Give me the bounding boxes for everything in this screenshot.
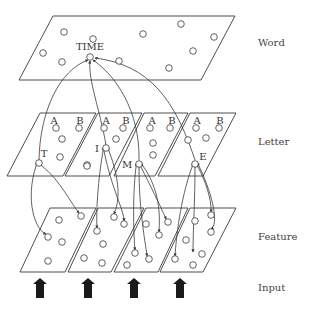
letter-node xyxy=(193,125,200,132)
label-word: Word xyxy=(258,37,285,48)
letter-node-m xyxy=(136,161,143,168)
input-arrow-icon xyxy=(173,278,187,298)
feature-node xyxy=(208,212,215,219)
letter-node xyxy=(53,125,60,132)
letter-node-i xyxy=(103,145,110,152)
letter-node xyxy=(76,125,83,132)
feature-node xyxy=(56,217,63,224)
input-arrow-icon xyxy=(127,278,141,298)
feature-node xyxy=(124,262,131,269)
word-node xyxy=(211,34,218,41)
letter-node xyxy=(150,140,157,147)
letter-node-label: T xyxy=(41,148,48,159)
letter-slot-label: A xyxy=(147,115,156,126)
letter-node xyxy=(147,125,154,132)
word-node xyxy=(40,50,47,57)
letter-node xyxy=(167,125,174,132)
feature-node xyxy=(165,219,172,226)
letter-node-label: E xyxy=(199,151,206,162)
feature-node xyxy=(94,228,101,235)
interactive-activation-diagram: TIME ABTABIABMABE Word Letter Feature In… xyxy=(0,0,313,318)
letter-node xyxy=(216,125,223,132)
feature-plane xyxy=(160,208,236,272)
letter-node xyxy=(59,136,66,143)
feature-node xyxy=(111,214,118,221)
word-node xyxy=(166,65,173,72)
feature-node xyxy=(121,221,128,228)
letter-node xyxy=(185,137,192,144)
feature-node xyxy=(172,256,179,263)
letter-slot-label: A xyxy=(49,115,58,126)
word-node xyxy=(59,59,66,66)
feature-node xyxy=(45,258,52,265)
feature-layer xyxy=(20,208,236,272)
letter-node-e xyxy=(192,161,199,168)
letter-layer: ABTABIABMABE xyxy=(7,113,236,176)
word-node xyxy=(178,21,185,28)
feature-node xyxy=(45,234,52,241)
letter-node-label: M xyxy=(122,159,132,170)
word-node xyxy=(140,31,147,38)
feature-node xyxy=(78,213,85,220)
input-arrow-icon xyxy=(33,278,47,298)
feature-node xyxy=(183,237,190,244)
letter-to-word-connection xyxy=(95,58,195,160)
feature-node xyxy=(132,250,139,257)
letter-slot-label: A xyxy=(192,115,201,126)
letter-node xyxy=(203,135,210,142)
letter-to-word-connection xyxy=(90,61,106,145)
feature-node xyxy=(190,262,197,269)
letter-slot-label: B xyxy=(76,115,83,126)
input-arrow-icon xyxy=(81,278,95,298)
label-input: Input xyxy=(258,282,285,293)
input-layer xyxy=(33,278,187,298)
label-letter: Letter xyxy=(258,136,290,147)
letter-node-t xyxy=(36,160,43,167)
feature-node xyxy=(81,255,88,262)
letter-slot-label: B xyxy=(216,115,223,126)
letter-node xyxy=(150,152,157,159)
letter-node xyxy=(101,125,108,132)
layer-labels: Word Letter Feature Input xyxy=(258,37,298,293)
word-node xyxy=(190,48,197,55)
letter-node-label: I xyxy=(95,143,99,154)
feature-node xyxy=(99,260,106,267)
feature-node xyxy=(146,256,153,263)
feature-node xyxy=(156,232,163,239)
feature-node xyxy=(143,221,150,228)
feature-node xyxy=(192,218,199,225)
word-node xyxy=(116,58,123,65)
letter-feature-connection xyxy=(42,166,79,213)
letter-to-word-connection xyxy=(93,60,139,160)
word-layer: TIME xyxy=(19,16,235,80)
letter-feature-connection xyxy=(134,167,136,250)
feature-node xyxy=(59,239,66,246)
feature-node xyxy=(208,229,215,236)
word-node-time xyxy=(87,54,94,61)
word-plane xyxy=(19,16,235,80)
letter-node xyxy=(113,136,120,143)
feature-node xyxy=(199,251,206,258)
letter-node xyxy=(120,125,127,132)
letter-feature-connection xyxy=(97,151,103,228)
letter-to-word-connection xyxy=(39,60,88,160)
feature-node xyxy=(100,241,107,248)
letter-node xyxy=(84,163,91,170)
letter-feature-connection xyxy=(193,168,195,252)
letter-node xyxy=(57,154,64,161)
letter-feature-connection xyxy=(199,166,215,229)
word-node-label: TIME xyxy=(76,41,104,52)
letter-slot-label: A xyxy=(101,115,110,126)
word-node xyxy=(61,29,68,36)
label-feature: Feature xyxy=(258,231,298,242)
letter-feature-connection xyxy=(139,168,147,256)
